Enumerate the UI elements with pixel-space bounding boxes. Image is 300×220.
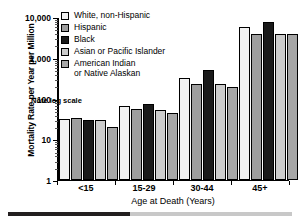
log-scale-note: Note log scale bbox=[31, 96, 82, 105]
y-axis-minor-tick bbox=[55, 144, 58, 145]
bar-group bbox=[239, 18, 299, 180]
bar[interactable] bbox=[59, 119, 70, 179]
bar[interactable] bbox=[191, 84, 202, 179]
y-axis-minor-tick bbox=[55, 34, 58, 35]
bar[interactable] bbox=[167, 113, 178, 180]
legend-item[interactable]: White, non-Hispanic bbox=[61, 11, 165, 21]
legend-item[interactable]: Black bbox=[61, 35, 165, 45]
bar[interactable] bbox=[71, 118, 82, 180]
x-axis-tick-label: 30-44 bbox=[173, 183, 231, 193]
x-axis-tick-label: 45+ bbox=[231, 183, 289, 193]
legend-item[interactable]: Asian or Pacific Islander bbox=[61, 47, 165, 57]
bar[interactable] bbox=[83, 120, 94, 180]
bar[interactable] bbox=[275, 34, 286, 179]
y-axis-minor-tick bbox=[55, 87, 58, 88]
y-axis-minor-tick bbox=[55, 153, 58, 154]
legend-swatch-icon bbox=[61, 24, 69, 32]
y-axis-tick-label: 10,000 bbox=[25, 14, 51, 23]
bar[interactable] bbox=[227, 87, 238, 180]
legend-label: Hispanic bbox=[74, 23, 107, 33]
legend: White, non-HispanicHispanicBlackAsian or… bbox=[61, 11, 165, 81]
y-axis-minor-tick bbox=[55, 142, 58, 143]
y-axis-minor-tick bbox=[55, 46, 58, 47]
y-axis-minor-tick bbox=[55, 27, 58, 28]
y-axis-title: Mortality Rate per Year per Million bbox=[26, 10, 36, 170]
legend-swatch-icon bbox=[61, 12, 69, 20]
y-axis-minor-tick bbox=[55, 128, 58, 129]
legend-label: Black bbox=[74, 35, 95, 45]
legend-item[interactable]: American Indian or Native Alaskan bbox=[61, 59, 165, 78]
x-axis-title: Age at Death (Years) bbox=[57, 196, 289, 206]
y-axis-minor-tick bbox=[55, 24, 58, 25]
bar[interactable] bbox=[203, 70, 214, 180]
y-axis-tick bbox=[53, 59, 58, 60]
legend-swatch-icon bbox=[61, 48, 69, 56]
x-axis-tick bbox=[289, 181, 290, 185]
y-axis-minor-tick bbox=[55, 169, 58, 170]
bar[interactable] bbox=[179, 78, 190, 180]
y-axis-minor-tick bbox=[55, 162, 58, 163]
y-axis-minor-tick bbox=[55, 112, 58, 113]
bar[interactable] bbox=[119, 106, 130, 180]
bar[interactable] bbox=[215, 84, 226, 180]
y-axis-minor-tick bbox=[55, 65, 58, 66]
y-axis-minor-tick bbox=[55, 63, 58, 64]
y-axis-minor-tick bbox=[55, 156, 58, 157]
y-axis-minor-tick bbox=[55, 121, 58, 122]
y-axis-minor-tick bbox=[55, 80, 58, 81]
legend-item[interactable]: Hispanic bbox=[61, 23, 165, 33]
bar[interactable] bbox=[95, 120, 106, 180]
footer-rule-dark-segment bbox=[8, 212, 130, 216]
bar[interactable] bbox=[107, 127, 118, 179]
bar[interactable] bbox=[155, 110, 166, 180]
bar[interactable] bbox=[131, 109, 142, 180]
y-axis-tick-label: 1,000 bbox=[30, 55, 51, 64]
y-axis-tick bbox=[53, 140, 58, 141]
footer-rule-light-segment bbox=[130, 212, 292, 216]
x-axis-tick-labels: <1515-2930-4445+ bbox=[57, 183, 289, 193]
bar[interactable] bbox=[143, 104, 154, 180]
y-axis-minor-tick bbox=[55, 30, 58, 31]
y-axis-minor-tick bbox=[55, 147, 58, 148]
y-axis-minor-tick bbox=[55, 149, 58, 150]
bar[interactable] bbox=[263, 22, 274, 179]
y-axis-minor-tick bbox=[55, 61, 58, 62]
bar[interactable] bbox=[287, 34, 298, 179]
y-axis-minor-tick bbox=[55, 106, 58, 107]
y-axis-minor-tick bbox=[55, 75, 58, 76]
y-axis-minor-tick bbox=[55, 116, 58, 117]
footer-rule bbox=[8, 212, 292, 216]
y-axis-tick-label: 10 bbox=[42, 136, 51, 145]
legend-swatch-icon bbox=[61, 36, 69, 44]
legend-label: American Indian or Native Alaskan bbox=[74, 59, 140, 78]
legend-label: Asian or Pacific Islander bbox=[74, 47, 165, 57]
mortality-rate-bar-chart: Mortality Rate per Year per Million 1101… bbox=[0, 0, 300, 220]
bar-group bbox=[179, 18, 239, 180]
y-axis-minor-tick bbox=[55, 109, 58, 110]
bar[interactable] bbox=[239, 27, 250, 179]
y-axis-minor-tick bbox=[55, 71, 58, 72]
y-axis-minor-tick bbox=[55, 20, 58, 21]
x-axis-tick-label: 15-29 bbox=[115, 183, 173, 193]
x-axis-tick-label: <15 bbox=[57, 183, 115, 193]
legend-label: White, non-Hispanic bbox=[74, 11, 150, 21]
y-axis-tick bbox=[53, 18, 58, 19]
bar[interactable] bbox=[251, 34, 262, 179]
y-axis-tick-label: 1 bbox=[46, 177, 51, 186]
y-axis-minor-tick bbox=[55, 68, 58, 69]
y-axis-minor-tick bbox=[55, 39, 58, 40]
legend-swatch-icon bbox=[61, 60, 69, 68]
y-axis-minor-tick bbox=[55, 22, 58, 23]
